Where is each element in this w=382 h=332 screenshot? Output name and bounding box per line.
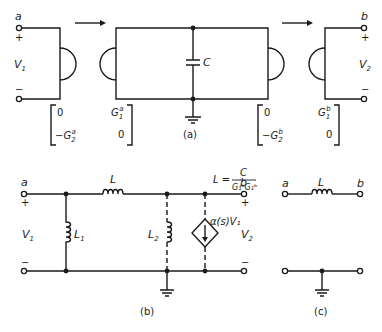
svg-text:L: L [110, 173, 116, 186]
v2-label: V2 [359, 58, 372, 73]
terminal-a [16, 25, 21, 30]
v1-label: V1 [22, 228, 34, 243]
arrow-right-icon [75, 20, 106, 26]
svg-text:a: a [21, 176, 28, 189]
svg-text:G1a: G1a [111, 105, 124, 121]
gyrator-half-left [60, 48, 76, 80]
svg-text:L =: L = [213, 174, 230, 185]
terminal-a [21, 191, 26, 196]
left-gyrator-block: a + − V1 [14, 10, 76, 102]
matrix-4: G1b 0 [318, 105, 339, 145]
part-b: L = C G₁ᵃG₁ᵇ a + − b + − V1 V2 L L1 [21, 167, 257, 317]
matrix-3: 0 −G2b [258, 105, 284, 145]
terminal-b [357, 191, 362, 196]
terminal-b-return [361, 96, 366, 101]
ground-icon [160, 271, 174, 296]
terminal-a-return [282, 268, 287, 273]
ground-icon [185, 99, 201, 123]
terminal-a-return [21, 268, 26, 273]
svg-text:−G2a: −G2a [55, 128, 76, 144]
gyrator-half-right [309, 48, 325, 80]
middle-block: C (a) [100, 26, 284, 140]
svg-text:L: L [318, 176, 324, 189]
svg-text:b: b [240, 176, 247, 189]
v1-label: V1 [14, 58, 26, 73]
terminal-b-return [241, 268, 246, 273]
arrow-right-icon [282, 20, 313, 26]
svg-text:0: 0 [326, 129, 332, 140]
svg-text:+: + [15, 32, 23, 43]
part-a: a + − V1 C (a) [14, 10, 372, 145]
L1-label: L1 [74, 228, 85, 243]
caption-a: (a) [183, 129, 197, 140]
terminal-a-return [16, 96, 21, 101]
svg-text:0: 0 [118, 129, 124, 140]
terminal-a-label: a [15, 10, 22, 23]
L2-label: L2 [148, 228, 159, 243]
terminal-b-label: b [361, 10, 368, 23]
equation-L: L = C G₁ᵃG₁ᵇ [213, 167, 257, 192]
dependent-source-label: α(s)V₁ [210, 216, 240, 227]
shunt-inductor-L1-icon [66, 194, 71, 271]
v2-label: V2 [241, 228, 254, 243]
circuit-figure: a + − V1 C (a) [0, 0, 382, 332]
svg-text:+: + [21, 197, 29, 208]
matrix-2: G1a 0 [111, 105, 132, 145]
caption-b: (b) [140, 306, 154, 317]
svg-text:a: a [282, 177, 289, 190]
caption-c: (c) [314, 306, 327, 317]
terminal-b [361, 25, 366, 30]
matrix-1: 0 −G2a [51, 105, 76, 145]
gyrator-half-mid-right [268, 48, 284, 80]
svg-text:−G2b: −G2b [262, 128, 284, 144]
svg-text:−: − [21, 257, 29, 268]
capacitor-icon [186, 28, 200, 99]
svg-text:b: b [357, 177, 364, 190]
part-c: a b L (c) [282, 176, 364, 317]
svg-text:+: + [241, 197, 249, 208]
shunt-inductor-L2-icon [167, 222, 172, 242]
svg-text:G1b: G1b [318, 105, 331, 121]
inductor-icon [312, 190, 332, 195]
series-inductor-icon [103, 190, 123, 195]
terminal-b [241, 191, 246, 196]
svg-text:0: 0 [57, 107, 63, 118]
svg-text:−: − [15, 84, 23, 95]
ground-icon [315, 271, 329, 296]
gyrator-half-mid-left [100, 48, 116, 80]
terminal-a [282, 191, 287, 196]
svg-text:−: − [241, 257, 249, 268]
terminal-b-return [357, 268, 362, 273]
svg-text:+: + [361, 32, 369, 43]
svg-text:0: 0 [264, 107, 270, 118]
right-gyrator-block: b + − V2 [309, 10, 372, 102]
svg-text:−: − [361, 84, 369, 95]
capacitor-label: C [203, 56, 211, 69]
